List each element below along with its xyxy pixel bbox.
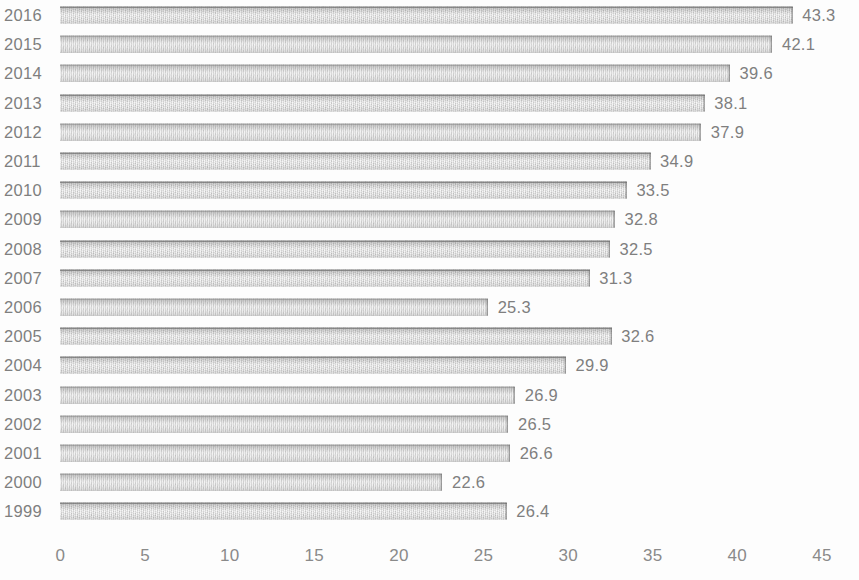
bar-row: 201134.9: [0, 147, 859, 176]
category-label: 2010: [4, 181, 42, 200]
x-axis-tick-label: 0: [56, 546, 66, 566]
bar-value-label: 25.3: [498, 298, 531, 317]
bar-row: 201338.1: [0, 88, 859, 117]
x-axis-tick-label: 5: [140, 546, 150, 566]
x-axis-tick-label: 35: [643, 546, 663, 566]
x-axis-tick-label: 45: [812, 546, 832, 566]
bar-row: 200932.8: [0, 205, 859, 234]
bar-row: 200731.3: [0, 263, 859, 292]
bar-row: 201237.9: [0, 117, 859, 146]
bar-value-label: 31.3: [599, 268, 632, 287]
bar[interactable]: [60, 36, 772, 53]
bar-row: 201439.6: [0, 59, 859, 88]
plot-area: 201643.3201542.1201439.6201338.1201237.9…: [0, 0, 859, 532]
bar-value-label: 32.8: [625, 210, 658, 229]
category-label: 2012: [4, 122, 42, 141]
bar[interactable]: [60, 65, 730, 82]
category-label: 2009: [4, 210, 42, 229]
category-label: 2004: [4, 356, 42, 375]
category-label: 2007: [4, 268, 42, 287]
bar-row: 200226.5: [0, 409, 859, 438]
bar[interactable]: [60, 299, 488, 316]
category-label: 2003: [4, 385, 42, 404]
bar[interactable]: [60, 415, 508, 432]
bar-value-label: 39.6: [740, 64, 773, 83]
bar-value-label: 26.9: [525, 385, 558, 404]
category-label: 2011: [4, 152, 41, 171]
bar-row: 200126.6: [0, 439, 859, 468]
bar-row: 200326.9: [0, 380, 859, 409]
category-label: 2002: [4, 414, 42, 433]
bar-value-label: 43.3: [802, 6, 835, 25]
bar[interactable]: [60, 7, 793, 24]
x-axis-tick-label: 10: [220, 546, 240, 566]
x-axis: 051015202530354045: [0, 532, 859, 580]
bar-row: 200429.9: [0, 351, 859, 380]
bar-row: 200532.6: [0, 322, 859, 351]
bar-row: 200832.5: [0, 234, 859, 263]
category-label: 2001: [4, 444, 42, 463]
bar[interactable]: [60, 445, 510, 462]
bar-row: 199926.4: [0, 497, 859, 526]
category-label: 2000: [4, 473, 42, 492]
x-axis-tick-label: 15: [305, 546, 325, 566]
x-axis-tick-label: 25: [474, 546, 494, 566]
bar-value-label: 37.9: [711, 122, 744, 141]
category-label: 2016: [4, 6, 42, 25]
bar-value-label: 33.5: [636, 181, 669, 200]
bar-row: 201542.1: [0, 30, 859, 59]
bar[interactable]: [60, 182, 627, 199]
bar[interactable]: [60, 211, 615, 228]
bar[interactable]: [60, 357, 566, 374]
bar[interactable]: [60, 386, 515, 403]
bar-row: 201643.3: [0, 1, 859, 30]
bar-value-label: 26.5: [518, 414, 551, 433]
x-axis-tick-label: 40: [728, 546, 748, 566]
bar[interactable]: [60, 269, 590, 286]
bar-chart: 201643.3201542.1201439.6201338.1201237.9…: [0, 0, 859, 580]
x-axis-tick-label: 30: [558, 546, 578, 566]
bar-row: 200625.3: [0, 293, 859, 322]
bar-value-label: 34.9: [660, 152, 693, 171]
bar-value-label: 42.1: [782, 35, 815, 54]
category-label: 2008: [4, 239, 42, 258]
bar-value-label: 38.1: [714, 93, 747, 112]
category-label: 2013: [4, 93, 42, 112]
bar-value-label: 32.6: [621, 327, 654, 346]
category-label: 2005: [4, 327, 42, 346]
bar-value-label: 29.9: [575, 356, 608, 375]
bar[interactable]: [60, 474, 442, 491]
bar[interactable]: [60, 328, 612, 345]
bar[interactable]: [60, 153, 651, 170]
bar[interactable]: [60, 94, 705, 111]
category-label: 1999: [4, 502, 42, 521]
bar-row: 200022.6: [0, 468, 859, 497]
bar[interactable]: [60, 123, 701, 140]
bar[interactable]: [60, 503, 507, 520]
category-label: 2015: [4, 35, 42, 54]
bar-value-label: 32.5: [619, 239, 652, 258]
bar[interactable]: [60, 240, 610, 257]
x-axis-tick-label: 20: [389, 546, 409, 566]
bar-value-label: 26.4: [516, 502, 549, 521]
category-label: 2014: [4, 64, 42, 83]
bar-value-label: 22.6: [452, 473, 485, 492]
bar-row: 201033.5: [0, 176, 859, 205]
category-label: 2006: [4, 298, 42, 317]
bar-value-label: 26.6: [520, 444, 553, 463]
